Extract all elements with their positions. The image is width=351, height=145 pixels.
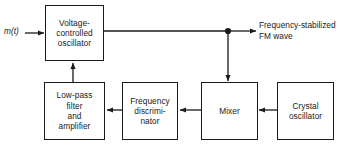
block-label-lpf: Low-pass filter and amplifier bbox=[57, 90, 93, 131]
block-label-frequency-discriminator: Frequency discrimi- nator bbox=[130, 96, 170, 127]
block-mixer: Mixer bbox=[201, 82, 258, 140]
block-label-mixer: Mixer bbox=[219, 106, 240, 116]
block-label-vco: Voltage- controlled oscillator bbox=[56, 18, 92, 49]
output-signal-label: Frequency-stabilized FM wave bbox=[259, 20, 336, 41]
block-frequency-discriminator: Frequency discrimi- nator bbox=[122, 82, 178, 140]
block-diagram: Voltage- controlled oscillator Low-pass … bbox=[0, 0, 351, 145]
input-signal-label: m(t) bbox=[4, 26, 19, 37]
block-voltage-controlled-oscillator: Voltage- controlled oscillator bbox=[45, 5, 104, 61]
block-label-crystal-oscillator: Crystal oscillator bbox=[289, 101, 322, 122]
block-low-pass-filter-and-amplifier: Low-pass filter and amplifier bbox=[44, 82, 105, 140]
block-crystal-oscillator: Crystal oscillator bbox=[277, 82, 334, 140]
